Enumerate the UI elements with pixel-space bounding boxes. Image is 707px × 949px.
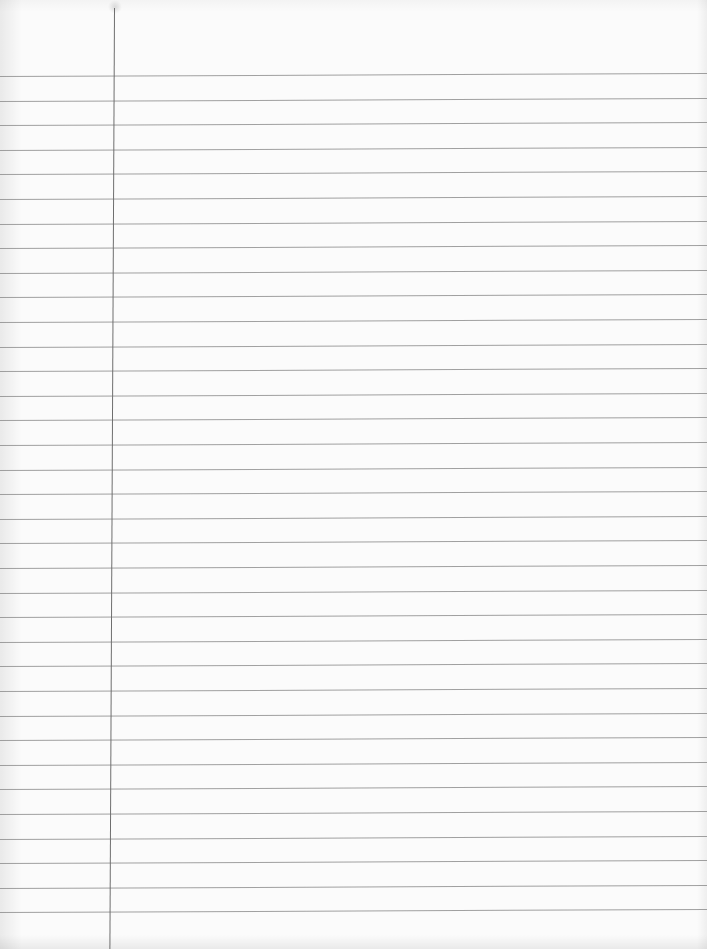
ruled-line bbox=[0, 811, 707, 815]
ruled-line bbox=[0, 171, 707, 175]
lined-paper-sheet bbox=[0, 0, 707, 949]
ruled-line bbox=[0, 270, 707, 274]
ruled-line bbox=[0, 836, 707, 840]
ruled-line bbox=[0, 147, 707, 151]
ruled-line bbox=[0, 786, 707, 790]
ruled-line bbox=[0, 737, 707, 741]
ruled-line bbox=[0, 122, 707, 126]
ruled-line bbox=[0, 393, 707, 397]
ruled-line bbox=[0, 614, 707, 618]
ruled-line bbox=[0, 196, 707, 200]
ruled-line bbox=[0, 565, 707, 569]
margin-shadow bbox=[108, 0, 122, 14]
ruled-line bbox=[0, 294, 707, 298]
ruled-line bbox=[0, 860, 707, 864]
ruled-line bbox=[0, 663, 707, 667]
ruled-line bbox=[0, 516, 707, 520]
ruled-line bbox=[0, 540, 707, 544]
ruled-line bbox=[0, 221, 707, 225]
ruled-line bbox=[0, 245, 707, 249]
ruled-line bbox=[0, 590, 707, 594]
ruled-line bbox=[0, 762, 707, 766]
ruled-line bbox=[0, 491, 707, 495]
ruled-line bbox=[0, 344, 707, 348]
blank-header-area bbox=[0, 0, 707, 70]
ruled-line bbox=[0, 688, 707, 692]
ruled-line bbox=[0, 639, 707, 643]
ruled-line bbox=[0, 442, 707, 446]
ruled-line bbox=[0, 467, 707, 471]
ruled-line bbox=[0, 713, 707, 717]
ruled-line bbox=[0, 417, 707, 421]
ruled-line bbox=[0, 885, 707, 889]
ruled-line bbox=[0, 98, 707, 102]
ruled-line bbox=[0, 909, 707, 913]
ruled-line bbox=[0, 73, 707, 77]
ruled-line bbox=[0, 319, 707, 323]
ruled-line bbox=[0, 368, 707, 372]
